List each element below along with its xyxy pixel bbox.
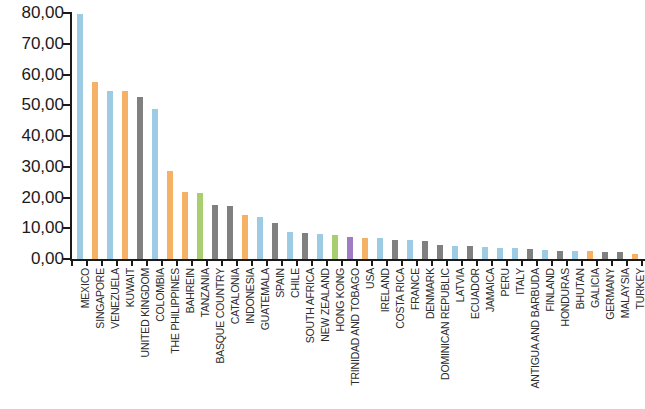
x-tick-slot (402, 261, 417, 267)
bar-slot (372, 10, 387, 260)
x-label-slot: FRANCE (402, 268, 417, 408)
bar[interactable] (437, 245, 443, 260)
x-label-slot: DENMARK (417, 268, 432, 408)
x-tick-slot (567, 261, 582, 267)
x-tick-mark (311, 261, 313, 266)
bar-slot (132, 10, 147, 260)
x-axis-category-labels: MEXICOSINGAPOREVENEZUELAKUWAITUNITED KIN… (72, 268, 642, 408)
x-label-slot: CATALONIA (222, 268, 237, 408)
bar[interactable] (302, 233, 308, 260)
bar-slot (297, 10, 312, 260)
x-label-slot: ITALY (507, 268, 522, 408)
bar[interactable] (467, 246, 473, 260)
x-tick-mark (521, 261, 523, 266)
bar[interactable] (347, 237, 353, 260)
x-tick-mark (131, 261, 133, 266)
bar[interactable] (377, 238, 383, 260)
x-label-slot: GALICIA (582, 268, 597, 408)
bar-slot (492, 10, 507, 260)
x-label-slot: NEW ZEALAND (312, 268, 327, 408)
x-tick-mark (551, 261, 553, 266)
bar-slot (87, 10, 102, 260)
bar-slot (507, 10, 522, 260)
bar[interactable] (167, 171, 173, 260)
bar[interactable] (77, 14, 83, 260)
bar[interactable] (197, 193, 203, 260)
x-tick-slot (417, 261, 432, 267)
x-tick-slot (522, 261, 537, 267)
x-axis-label: TURKEY (635, 268, 645, 309)
bar[interactable] (242, 215, 248, 260)
bar[interactable] (257, 217, 263, 260)
plot-area (72, 10, 642, 260)
x-tick-mark (266, 261, 268, 266)
bar-slot (522, 10, 537, 260)
bar[interactable] (422, 241, 428, 260)
y-axis-tick-labels: 80,0070,0060,0050,0040,0030,0020,0010,00… (0, 0, 68, 270)
bar[interactable] (137, 97, 143, 260)
x-tick-slot (87, 261, 102, 267)
y-tick-label: 20,00 (21, 189, 64, 206)
x-label-slot: SPAIN (267, 268, 282, 408)
x-label-slot: HONG KONG (327, 268, 342, 408)
x-tick-slot (462, 261, 477, 267)
bar[interactable] (332, 235, 338, 260)
x-tick-mark (476, 261, 478, 266)
x-tick-mark (536, 261, 538, 266)
x-tick-mark (371, 261, 373, 266)
x-tick-mark (251, 261, 253, 266)
bar-slot (537, 10, 552, 260)
x-tick-slot (192, 261, 207, 267)
bars-container (72, 10, 642, 260)
x-tick-mark (71, 261, 73, 266)
bar[interactable] (317, 234, 323, 260)
bar-slot (147, 10, 162, 260)
y-tick-label: 10,00 (21, 219, 64, 236)
bar[interactable] (152, 109, 158, 260)
y-tick-mark (63, 197, 72, 199)
bar[interactable] (122, 91, 128, 260)
x-tick-mark (221, 261, 223, 266)
x-tick-slot (237, 261, 252, 267)
x-tick-mark (596, 261, 598, 266)
x-label-slot: FINLAND (537, 268, 552, 408)
bar-slot (327, 10, 342, 260)
x-label-slot: INDONESIA (237, 268, 252, 408)
x-tick-slot (117, 261, 132, 267)
x-tick-slot (132, 261, 147, 267)
bar-slot (222, 10, 237, 260)
x-tick-mark (101, 261, 103, 266)
y-tick-label: 50,00 (21, 96, 64, 113)
bar[interactable] (182, 192, 188, 260)
y-tick-mark (63, 258, 72, 260)
bar[interactable] (227, 206, 233, 260)
x-tick-slot (252, 261, 267, 267)
x-tick-slot (222, 261, 237, 267)
bar[interactable] (272, 223, 278, 260)
bar-slot (597, 10, 612, 260)
bar[interactable] (92, 82, 98, 260)
y-tick-label: 60,00 (21, 66, 64, 83)
x-tick-mark (326, 261, 328, 266)
y-tick-mark (63, 12, 72, 14)
x-tick-slot (297, 261, 312, 267)
bar-slot (417, 10, 432, 260)
bar[interactable] (452, 246, 458, 260)
bar[interactable] (107, 91, 113, 260)
x-label-slot: COSTA RICA (387, 268, 402, 408)
bar[interactable] (392, 240, 398, 260)
x-tick-slot (477, 261, 492, 267)
x-tick-mark (296, 261, 298, 266)
bar[interactable] (407, 240, 413, 260)
x-tick-mark (446, 261, 448, 266)
bar[interactable] (362, 238, 368, 260)
x-label-slot: UNITED KINGDOM (132, 268, 147, 408)
x-label-slot: ECUADOR (462, 268, 477, 408)
bar[interactable] (287, 232, 293, 260)
x-tick-slot (177, 261, 192, 267)
bar[interactable] (212, 205, 218, 260)
x-tick-slot (552, 261, 567, 267)
x-tick-slot (537, 261, 552, 267)
x-tick-slot (267, 261, 282, 267)
x-tick-mark (641, 261, 643, 266)
